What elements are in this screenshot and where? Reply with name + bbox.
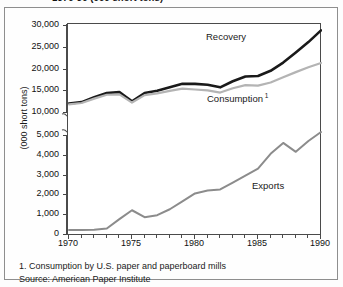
x-axis: 19701975198019851990 (5, 235, 339, 257)
footnote-marker: 1 (263, 92, 268, 99)
series-line-recovery (69, 30, 321, 103)
series-label-exports: Exports (252, 180, 284, 191)
x-axis-tick-label: 1975 (111, 238, 151, 248)
x-axis-tick-label: 1980 (174, 238, 214, 248)
y-axis-tick-label: 10,000 (5, 107, 59, 116)
plot-area (67, 23, 321, 235)
y-axis-label: (000 short tons) (19, 58, 29, 178)
y-axis-tick-label: 5,000 (5, 130, 59, 139)
series-label-recovery: Recovery (206, 31, 246, 42)
footnote-1: 1. Consumption by U.S. paper and paperbo… (19, 260, 339, 273)
y-axis-tick-label: 20,000 (5, 64, 59, 73)
chart-title-strip: 1970-90 (000 short tons) (0, 0, 343, 7)
x-axis-tick-label: 1990 (300, 238, 340, 248)
plot-lines (68, 24, 322, 236)
y-axis-tick-label: 3,000 (5, 170, 59, 179)
chart-title: 1970-90 (000 short tons) (52, 0, 163, 3)
x-axis-tick-label: 1985 (237, 238, 277, 248)
footnote-source: Source: American Paper Institute (19, 273, 339, 286)
y-axis-tick-label: 30,000 (5, 20, 59, 29)
y-axis-tick-label: 15,000 (5, 85, 59, 94)
series-label-consumption: Consumption 1 (207, 92, 268, 104)
footnote-block: 1. Consumption by U.S. paper and paperbo… (19, 260, 339, 285)
y-axis-tick-label: 1,000 (5, 209, 59, 218)
y-axis-tick-label: 25,000 (5, 42, 59, 51)
chart-figure: 1970-90 (000 short tons) (000 short tons… (0, 0, 343, 287)
y-axis-tick-label: 4,000 (5, 150, 59, 159)
y-axis-tick-label: 2,000 (5, 189, 59, 198)
x-axis-tick-label: 1970 (48, 238, 88, 248)
figure-frame: (000 short tons) 01,0002,0003,0004,0005,… (4, 7, 338, 280)
